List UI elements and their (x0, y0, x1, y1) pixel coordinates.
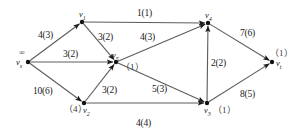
edge-label-v1-v5: 3(2) (98, 33, 113, 43)
node-label-vs: vs (16, 58, 22, 69)
edge-label-v5-v3: 5(3) (152, 85, 167, 95)
node-label-sub-v4: 4 (209, 16, 212, 22)
node-label-sub-vt: t (280, 64, 282, 70)
flow-network-diagram: 4(3)3(2)10(6)1(1)3(2)4(3)5(3)3(2)4(4)2(2… (0, 0, 294, 133)
node-annotation-vt: （1） (270, 49, 293, 58)
node-annotation-vs: ∞ (19, 49, 25, 57)
graph-canvas (0, 0, 294, 133)
node-label-sub-v5: 5 (116, 56, 119, 62)
edge-label-v5-v4: 4(3) (140, 33, 155, 43)
node-label-sub-v1: 1 (83, 15, 86, 21)
edge-label-v2-v3: 4(4) (136, 119, 151, 129)
edge-label-v2-v5: 3(2) (102, 86, 117, 96)
edge-label-v1-v4: 1(1) (137, 9, 152, 19)
node-label-sub-v2: 2 (87, 111, 90, 117)
node-label-v4: v4 (205, 11, 212, 22)
node-label-v5: v5 (112, 51, 119, 62)
node-vs (26, 60, 30, 64)
edge-v3-v4 (207, 26, 208, 101)
node-label-v3: v3 (204, 106, 211, 117)
edge-label-vs-v1: 4(3) (38, 31, 53, 41)
node-vt (270, 60, 274, 64)
edge-v2-v5 (85, 64, 114, 101)
node-label-sub-v3: 3 (208, 111, 211, 117)
edge-label-v3-v4: 2(2) (211, 59, 226, 69)
edge-v1-v4 (84, 22, 205, 23)
node-annotation-v5: （1） (121, 63, 144, 72)
edge-label-v4-vt: 7(6) (240, 29, 255, 39)
node-annotation-v3: （1） (213, 106, 236, 115)
edge-label-v3-vt: 8(5) (240, 90, 255, 100)
node-label-vt: vt (276, 59, 281, 70)
edge-label-vs-v2: 10(6) (33, 87, 53, 97)
node-label-sub-vs: s (20, 63, 22, 69)
edge-label-vs-v5: 3(2) (63, 50, 78, 60)
node-label-v1: v1 (79, 10, 86, 21)
node-annotation-v2: （4） (64, 105, 87, 114)
edge-v5-v4 (118, 24, 205, 61)
